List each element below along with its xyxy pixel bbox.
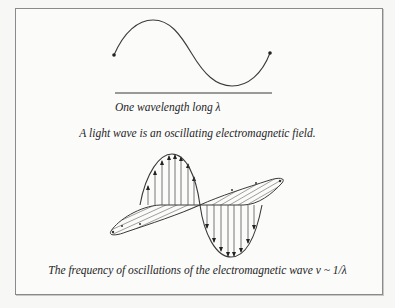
wave-diagram (0, 0, 395, 308)
wave-end-dot (268, 51, 272, 55)
wavelength-sine (114, 20, 270, 86)
wave-start-dot (112, 53, 116, 57)
magnetic-field (100, 160, 290, 270)
wavelength-caption: One wavelength long λ (115, 101, 221, 113)
frequency-caption: The frequency of oscillations of the ele… (0, 264, 395, 276)
light-wave-caption: A light wave is an oscillating electroma… (0, 127, 395, 139)
